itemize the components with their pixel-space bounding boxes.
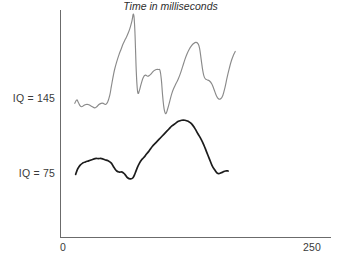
x-axis-tick-label-min: 0 (60, 241, 66, 253)
series-line-iq145 (75, 14, 235, 114)
x-axis-tick-label-max: 250 (303, 241, 321, 253)
y-axis-tick-label-lower: IQ = 75 (3, 167, 55, 179)
y-axis-tick-label-upper: IQ = 145 (3, 92, 55, 104)
series-line-iq75 (76, 120, 229, 179)
chart-container: IQ = 145 IQ = 75 0 250 Time in milliseco… (0, 0, 341, 260)
plot-area (0, 0, 341, 260)
